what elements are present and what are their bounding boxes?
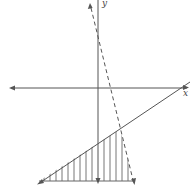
solid-boundary-line — [41, 82, 190, 182]
x-axis-left-arrow-icon — [9, 86, 15, 91]
solid-line-bottom-arrow-icon — [37, 179, 44, 185]
shaded-region — [44, 120, 128, 182]
inequality-graph: x y — [0, 0, 191, 187]
y-axis-label: y — [101, 0, 108, 8]
dashed-line-top-arrow-icon — [88, 3, 93, 9]
dashed-boundary-line — [91, 8, 133, 180]
x-axis-label: x — [183, 88, 188, 98]
